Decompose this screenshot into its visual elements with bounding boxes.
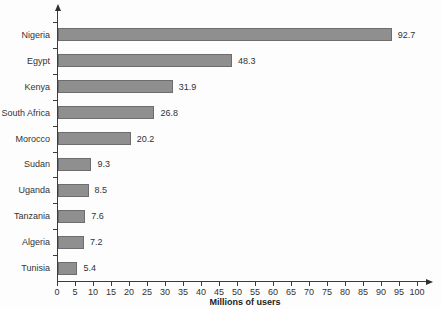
x-axis-line xyxy=(57,281,427,282)
x-tick xyxy=(219,282,220,286)
category-label: Uganda xyxy=(0,185,50,195)
x-tick-label: 75 xyxy=(322,287,332,297)
x-tick-label: 15 xyxy=(106,287,116,297)
value-label: 5.4 xyxy=(83,263,96,273)
x-tick-label: 95 xyxy=(394,287,404,297)
x-tick-label: 35 xyxy=(178,287,188,297)
bar xyxy=(58,80,173,93)
x-tick-label: 85 xyxy=(358,287,368,297)
category-label: Egypt xyxy=(0,56,50,66)
x-tick-label: 65 xyxy=(286,287,296,297)
bar-chart: Nigeria92.7Egypt48.3Kenya31.9South Afric… xyxy=(0,0,441,309)
category-label: Morocco xyxy=(0,134,50,144)
x-tick-label: 0 xyxy=(54,287,59,297)
y-tick xyxy=(53,126,57,127)
x-tick xyxy=(93,282,94,286)
value-label: 7.2 xyxy=(90,237,103,247)
value-label: 9.3 xyxy=(97,159,110,169)
value-label: 48.3 xyxy=(238,56,256,66)
x-tick xyxy=(291,282,292,286)
category-label: Nigeria xyxy=(0,30,50,40)
x-tick xyxy=(183,282,184,286)
x-tick-label: 60 xyxy=(268,287,278,297)
x-tick-label: 30 xyxy=(160,287,170,297)
bar xyxy=(58,54,232,67)
x-tick-label: 10 xyxy=(88,287,98,297)
bar xyxy=(58,236,84,249)
category-label: Kenya xyxy=(0,82,50,92)
x-tick-label: 50 xyxy=(232,287,242,297)
bar xyxy=(58,262,77,275)
bar xyxy=(58,28,392,41)
x-tick xyxy=(57,282,58,286)
x-tick-label: 25 xyxy=(142,287,152,297)
x-tick xyxy=(147,282,148,286)
x-tick xyxy=(309,282,310,286)
x-tick-label: 90 xyxy=(376,287,386,297)
x-tick xyxy=(363,282,364,286)
bar xyxy=(58,106,154,119)
x-tick xyxy=(165,282,166,286)
x-tick xyxy=(273,282,274,286)
y-tick xyxy=(53,255,57,256)
value-label: 8.5 xyxy=(95,185,108,195)
bar xyxy=(58,158,91,171)
y-tick xyxy=(53,203,57,204)
x-tick xyxy=(75,282,76,286)
value-label: 20.2 xyxy=(137,134,155,144)
y-tick xyxy=(53,74,57,75)
x-axis-arrow-icon xyxy=(426,279,433,285)
category-label: Sudan xyxy=(0,159,50,169)
value-label: 31.9 xyxy=(179,82,197,92)
x-tick xyxy=(201,282,202,286)
x-tick xyxy=(399,282,400,286)
x-tick-label: 80 xyxy=(340,287,350,297)
x-tick xyxy=(111,282,112,286)
bar xyxy=(58,184,89,197)
x-tick-label: 40 xyxy=(196,287,206,297)
category-label: South Africa xyxy=(0,108,50,118)
x-tick xyxy=(327,282,328,286)
y-tick xyxy=(53,100,57,101)
x-tick-label: 100 xyxy=(409,287,424,297)
bar xyxy=(58,132,131,145)
value-label: 26.8 xyxy=(160,108,178,118)
x-tick-label: 5 xyxy=(72,287,77,297)
category-label: Tunisia xyxy=(0,263,50,273)
category-label: Tanzania xyxy=(0,211,50,221)
x-tick-label: 70 xyxy=(304,287,314,297)
y-tick xyxy=(53,229,57,230)
y-axis-arrow-icon xyxy=(55,4,61,11)
y-tick xyxy=(53,48,57,49)
x-tick xyxy=(237,282,238,286)
x-tick-label: 20 xyxy=(124,287,134,297)
bar xyxy=(58,210,85,223)
value-label: 92.7 xyxy=(398,30,416,40)
category-label: Algeria xyxy=(0,237,50,247)
y-tick xyxy=(53,152,57,153)
x-tick-label: 45 xyxy=(214,287,224,297)
x-tick xyxy=(345,282,346,286)
x-tick xyxy=(381,282,382,286)
x-axis-title: Millions of users xyxy=(209,297,280,307)
x-tick xyxy=(255,282,256,286)
x-tick xyxy=(417,282,418,286)
x-tick-label: 55 xyxy=(250,287,260,297)
y-tick xyxy=(53,22,57,23)
y-tick xyxy=(53,177,57,178)
value-label: 7.6 xyxy=(91,211,104,221)
x-tick xyxy=(129,282,130,286)
